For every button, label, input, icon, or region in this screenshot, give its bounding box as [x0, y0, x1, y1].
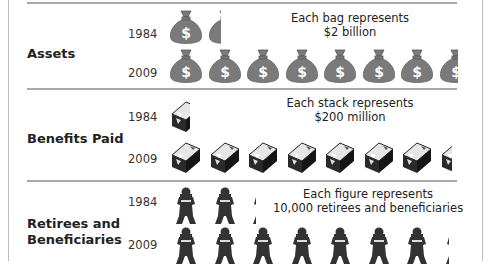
cash-stack-icon	[438, 135, 452, 175]
year-label-1984: 1984	[128, 110, 157, 124]
svg-text:$: $	[297, 64, 307, 80]
cash-stack-icon	[361, 135, 397, 175]
money-bag-icon: $	[438, 47, 459, 87]
svg-text:$: $	[181, 64, 191, 80]
year-label-1984: 1984	[128, 195, 157, 209]
year-label-2009: 2009	[128, 238, 157, 252]
person-figure-icon	[322, 226, 358, 266]
svg-text:$: $	[412, 64, 422, 80]
money-bag-icon: $	[168, 8, 204, 48]
money-bag-icon: $	[361, 47, 397, 87]
svg-text:$: $	[258, 64, 268, 80]
cash-stack-icon	[168, 135, 204, 175]
year-label-2009: 2009	[128, 66, 157, 80]
svg-text:$: $	[220, 25, 221, 41]
category-label-assets: Assets	[27, 46, 75, 62]
icon-row-benefits-2009	[168, 135, 458, 175]
money-bag-icon: $	[284, 47, 320, 87]
section-benefits-paid: Benefits Paid 1984 2009 Each stack repre…	[0, 88, 482, 180]
money-bag-icon: $	[207, 8, 221, 48]
cash-stack-icon	[399, 135, 435, 175]
category-label-retirees: Retirees and Beneficiaries	[27, 216, 122, 248]
cash-stack-icon	[322, 135, 358, 175]
icon-row-assets-1984: $ $	[168, 8, 458, 48]
person-figure-icon	[168, 186, 204, 226]
person-figure-icon	[245, 226, 281, 266]
cash-stack-icon	[284, 135, 320, 175]
cash-stack-icon	[168, 94, 190, 134]
person-figure-icon	[207, 186, 243, 226]
year-label-2009: 2009	[128, 152, 157, 166]
section-retirees: Retirees and Beneficiaries 1984 2009 Eac…	[0, 180, 482, 261]
icon-row-retirees-1984	[168, 186, 458, 226]
person-figure-icon	[438, 226, 449, 266]
cash-stack-icon	[207, 135, 243, 175]
svg-text:$: $	[220, 64, 230, 80]
money-bag-icon: $	[399, 47, 435, 87]
svg-text:$: $	[181, 25, 191, 41]
cash-stack-icon	[245, 135, 281, 175]
money-bag-icon: $	[322, 47, 358, 87]
svg-text:$: $	[374, 64, 384, 80]
svg-text:$: $	[451, 64, 458, 80]
money-bag-icon: $	[207, 47, 243, 87]
person-figure-icon	[207, 226, 243, 266]
person-figure-icon	[245, 186, 256, 226]
money-bag-icon: $	[245, 47, 281, 87]
icon-row-benefits-1984	[168, 94, 458, 134]
icon-row-retirees-2009	[168, 226, 458, 266]
person-figure-icon	[399, 226, 435, 266]
money-bag-icon: $	[168, 47, 204, 87]
svg-text:$: $	[335, 64, 345, 80]
category-label-benefits-paid: Benefits Paid	[27, 131, 124, 147]
year-label-1984: 1984	[128, 27, 157, 41]
right-border	[482, 0, 483, 261]
person-figure-icon	[284, 226, 320, 266]
person-figure-icon	[168, 226, 204, 266]
person-figure-icon	[361, 226, 397, 266]
section-assets: Assets 1984 2009 Each bag represents $2 …	[0, 0, 482, 88]
icon-row-assets-2009: $ $ $ $ $ $ $ $	[168, 47, 458, 87]
